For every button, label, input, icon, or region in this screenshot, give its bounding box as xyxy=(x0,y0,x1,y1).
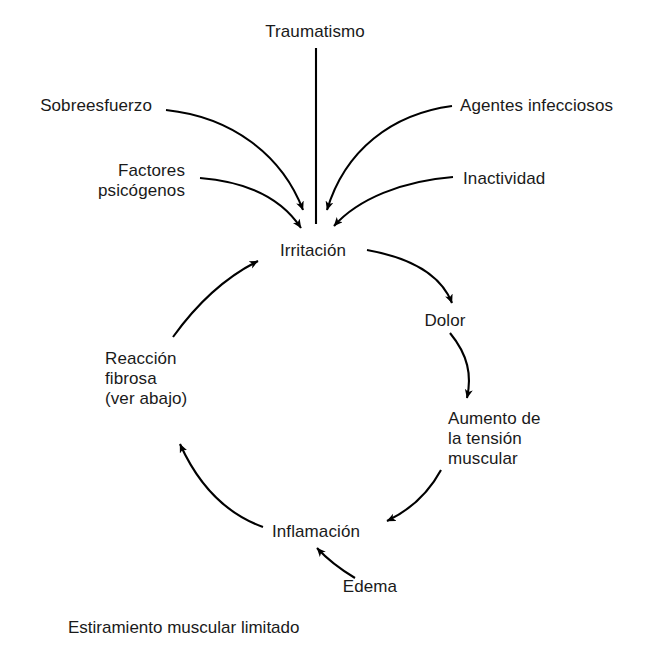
figure-canvas: o o o g o o o o o o , o o p o p o o o o xyxy=(0,0,647,645)
node-traumatismo: Traumatismo xyxy=(265,22,365,42)
node-inactividad: Inactividad xyxy=(463,169,545,189)
edge-aumento-tension-inflamacion xyxy=(387,470,441,521)
edge-dolor-aumento-tension xyxy=(450,333,469,398)
edge-inactividad-irritacion xyxy=(334,177,453,226)
node-irritacion: Irritación xyxy=(280,241,346,261)
edge-agentes-infecciosos-irritacion xyxy=(327,106,452,210)
edge-inflamacion-reaccion-fibrosa xyxy=(180,444,263,527)
edge-irritacion-dolor xyxy=(367,250,452,303)
edge-reaccion-fibrosa-irritacion xyxy=(173,261,258,337)
edge-factores-psicogenos-irritacion xyxy=(200,178,301,228)
node-edema: Edema xyxy=(343,577,397,597)
node-agentes-infecciosos: Agentes infecciosos xyxy=(460,96,613,116)
node-aumento-tension-muscular: Aumento de la tensión muscular xyxy=(448,409,541,469)
node-inflamacion: Inflamación xyxy=(272,522,360,542)
edge-edema-inflamacion xyxy=(317,548,355,578)
node-reaccion-fibrosa: Reacción fibrosa (ver abajo) xyxy=(105,349,187,409)
edge-sobreesfuerzo-irritacion xyxy=(166,110,303,210)
figure-caption: Estiramiento muscular limitado xyxy=(68,618,299,638)
node-factores-psicogenos: Factores psicógenos xyxy=(98,161,185,201)
node-dolor: Dolor xyxy=(424,311,465,331)
node-sobreesfuerzo: Sobreesfuerzo xyxy=(40,96,152,116)
